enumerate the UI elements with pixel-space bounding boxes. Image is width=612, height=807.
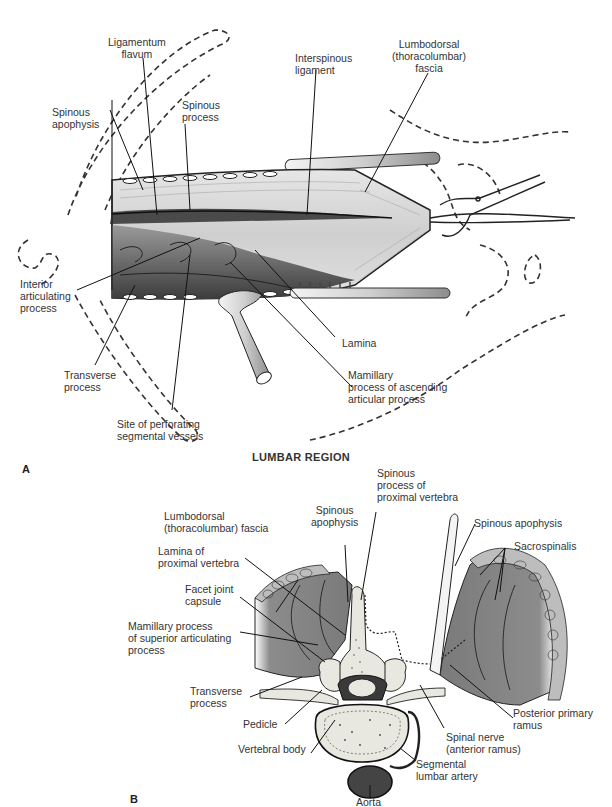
label-spinal-nerve: Spinal nerve (anterior ramus) xyxy=(446,731,521,755)
label-sacrospinalis: Sacrospinalis xyxy=(514,540,576,552)
label-lamina-proximal: Lamina of proximal vertebra xyxy=(158,545,239,569)
label-ligamentum-flavum: Ligamentum flavum xyxy=(108,36,166,60)
label-spinous-process: Spinous process xyxy=(182,99,220,123)
label-segmental-lumbar-artery: Segmental lumbar artery xyxy=(416,758,478,782)
region-title: LUMBAR REGION xyxy=(252,451,350,463)
label-lumbodorsal-fascia: Lumbodorsal (thoracolumbar) fascia xyxy=(392,38,466,74)
label-site-of-perforating-vessels: Site of perforating segmental vessels xyxy=(117,418,203,442)
label-spinous-process-proximal: Spinous process of proximal vertebra xyxy=(377,467,458,503)
label-vertebral-body: Vertebral body xyxy=(238,743,306,755)
label-mamillary-process-superior: Mamillary process of superior articulati… xyxy=(128,620,231,656)
label-transverse-process-b: Transverse process xyxy=(190,685,242,709)
label-facet-joint-capsule: Facet joint capsule xyxy=(185,583,233,607)
label-mamillary-process-ascending: Mamillary process of ascending articular… xyxy=(348,369,447,405)
label-posterior-primary-ramus: Posterior primary ramus xyxy=(513,707,593,731)
label-pedicle: Pedicle xyxy=(243,718,277,730)
label-aorta: Aorta xyxy=(356,796,381,807)
label-spinous-apophysis-right: Spinous apophysis xyxy=(474,517,562,529)
panel-letter-a: A xyxy=(22,463,30,475)
label-transverse-process: Transverse process xyxy=(64,369,116,393)
label-lumbodorsal-fascia-b: Lumbodorsal (thoracolumbar) fascia xyxy=(164,510,268,534)
label-spinous-apophysis-left: Spinous apophysis xyxy=(311,504,358,528)
panel-letter-b: B xyxy=(130,793,138,805)
label-interspinous-ligament: Interspinous ligament xyxy=(295,52,352,76)
label-interior-articulating-process: Interior articulating process xyxy=(20,278,71,314)
label-lamina: Lamina xyxy=(342,337,376,349)
label-spinous-apophysis: Spinous apophysis xyxy=(52,106,99,130)
